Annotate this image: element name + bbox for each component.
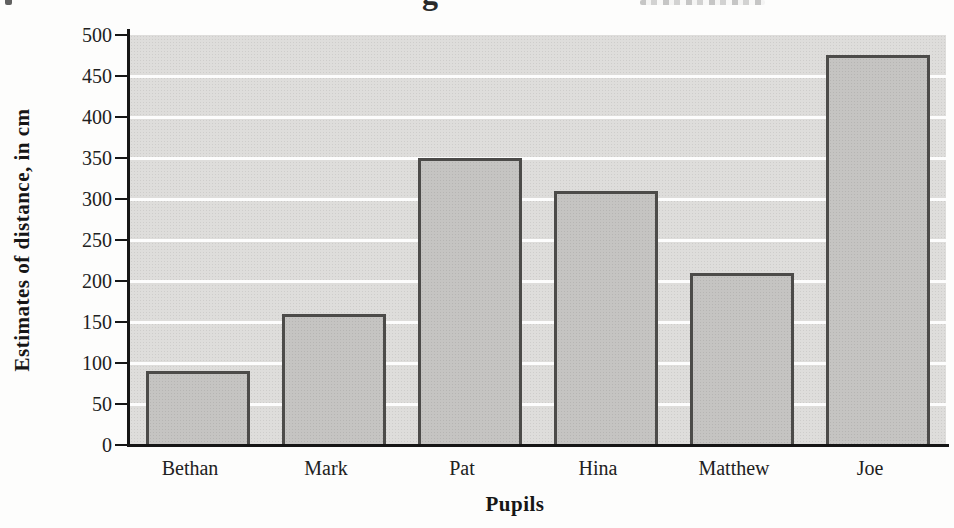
cropped-title-smudge bbox=[640, 0, 765, 5]
gridline-150 bbox=[130, 321, 946, 324]
y-tick-label-350: 350 bbox=[60, 148, 112, 168]
y-tick-label-150: 150 bbox=[60, 312, 112, 332]
cropped-title-fragment: g bbox=[420, 0, 448, 13]
y-axis-title: Estimates of distance, in cm bbox=[10, 108, 35, 371]
y-tick-50 bbox=[115, 403, 128, 405]
bar-pat bbox=[418, 158, 522, 445]
y-tick-label-500: 500 bbox=[60, 25, 112, 45]
y-tick-100 bbox=[115, 362, 128, 364]
y-tick-500 bbox=[115, 34, 128, 36]
x-axis-line bbox=[127, 444, 949, 447]
bar-joe bbox=[826, 55, 930, 445]
y-tick-label-100: 100 bbox=[60, 353, 112, 373]
gridline-400 bbox=[130, 116, 946, 119]
gridline-300 bbox=[130, 198, 946, 201]
x-tick-label-hina: Hina bbox=[538, 456, 658, 480]
x-axis-title: Pupils bbox=[485, 492, 544, 517]
gridline-50 bbox=[130, 403, 946, 406]
bar-hina bbox=[554, 191, 658, 445]
y-tick-350 bbox=[115, 157, 128, 159]
bar-chart-figure: g Estimates of distance, in cm 050100150… bbox=[0, 0, 954, 528]
y-tick-250 bbox=[115, 239, 128, 241]
x-tick-label-bethan: Bethan bbox=[130, 456, 250, 480]
y-tick-label-50: 50 bbox=[60, 394, 112, 414]
bar-matthew bbox=[690, 273, 794, 445]
bar-mark bbox=[282, 314, 386, 445]
x-tick-label-joe: Joe bbox=[810, 456, 930, 480]
y-tick-150 bbox=[115, 321, 128, 323]
y-tick-400 bbox=[115, 116, 128, 118]
page-edge-fragment bbox=[5, 0, 12, 5]
gridline-200 bbox=[130, 280, 946, 283]
x-tick-label-matthew: Matthew bbox=[674, 456, 794, 480]
x-tick-label-pat: Pat bbox=[402, 456, 522, 480]
gridline-100 bbox=[130, 362, 946, 365]
y-tick-label-400: 400 bbox=[60, 107, 112, 127]
y-tick-label-300: 300 bbox=[60, 189, 112, 209]
gridline-450 bbox=[130, 75, 946, 78]
y-tick-label-200: 200 bbox=[60, 271, 112, 291]
gridline-350 bbox=[130, 157, 946, 160]
bar-bethan bbox=[146, 371, 250, 445]
y-tick-label-450: 450 bbox=[60, 66, 112, 86]
y-tick-label-0: 0 bbox=[60, 435, 112, 455]
x-tick-label-mark: Mark bbox=[266, 456, 386, 480]
y-tick-200 bbox=[115, 280, 128, 282]
y-axis-line bbox=[127, 29, 130, 447]
gridline-250 bbox=[130, 239, 946, 242]
title-descender-glyph: g bbox=[422, 0, 438, 12]
y-tick-450 bbox=[115, 75, 128, 77]
y-tick-300 bbox=[115, 198, 128, 200]
y-tick-label-250: 250 bbox=[60, 230, 112, 250]
plot-area bbox=[130, 35, 946, 445]
